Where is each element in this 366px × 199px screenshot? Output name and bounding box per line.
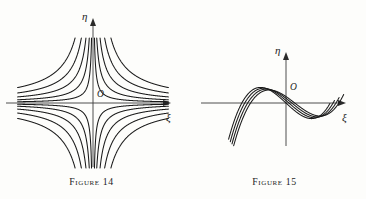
curve xyxy=(105,38,169,93)
figure-15-plot: η ξ O xyxy=(183,0,366,175)
curve xyxy=(97,38,169,100)
figure-14-caption-number: 14 xyxy=(103,176,114,187)
eta-axis-arrow-icon xyxy=(283,52,289,60)
figure-15-block: η ξ O Figure15 xyxy=(183,0,366,199)
curve xyxy=(18,38,90,100)
figure-15-caption: Figure15 xyxy=(183,176,366,187)
figure-14-caption-prefix: Figure xyxy=(69,176,99,187)
curve xyxy=(18,113,82,168)
curve xyxy=(18,38,82,93)
figure-15-caption-number: 15 xyxy=(286,176,297,187)
curve xyxy=(18,109,86,168)
eta-axis-label: η xyxy=(82,10,87,22)
figure-page: η ξ O Figure14 η ξ O Figure15 xyxy=(0,0,366,199)
curve xyxy=(111,38,169,88)
figure-14-caption: Figure14 xyxy=(0,176,183,187)
xi-axis-arrow-icon xyxy=(163,100,171,106)
curve xyxy=(234,90,344,146)
figure-14-axes xyxy=(6,18,171,167)
curve xyxy=(18,38,86,97)
figure-14-block: η ξ O Figure14 xyxy=(0,0,183,199)
curve xyxy=(18,38,92,102)
curve xyxy=(100,109,168,168)
origin-label: O xyxy=(290,82,297,92)
curve xyxy=(18,104,92,168)
xi-axis-label: ξ xyxy=(342,111,347,124)
curve xyxy=(18,38,76,88)
curve xyxy=(111,118,169,168)
curve xyxy=(105,113,169,168)
curve xyxy=(18,118,76,168)
figure-14-plot: η ξ O xyxy=(0,0,183,175)
curve xyxy=(100,38,168,97)
eta-axis-label: η xyxy=(275,44,280,56)
xi-axis-label: ξ xyxy=(166,111,171,124)
curve xyxy=(18,106,90,168)
eta-axis-arrow-icon xyxy=(90,18,96,26)
origin-label: O xyxy=(97,89,104,99)
figure-15-axes xyxy=(201,52,346,146)
figure-15-caption-prefix: Figure xyxy=(252,176,282,187)
curve xyxy=(97,106,169,168)
curve xyxy=(94,104,168,168)
curve xyxy=(94,38,168,102)
